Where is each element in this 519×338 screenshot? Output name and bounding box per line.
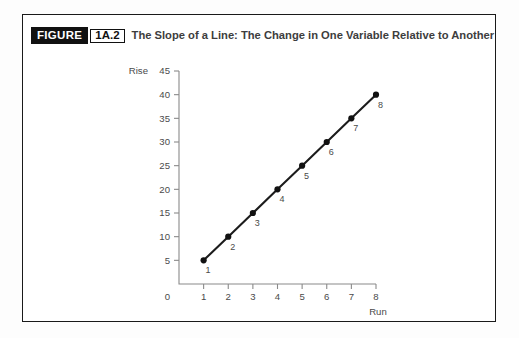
x-tick-label: 7	[349, 291, 354, 302]
y-tick-label: 40	[159, 89, 170, 100]
x-tick-label: 1	[201, 291, 206, 302]
figure-page: FIGURE 1A.2 The Slope of a Line: The Cha…	[0, 0, 519, 338]
x-tick-label: 8	[373, 291, 378, 302]
data-point-label: 7	[353, 123, 358, 133]
data-point	[348, 115, 354, 121]
x-tick-label: 6	[324, 291, 329, 302]
y-tick-label: 25	[159, 160, 170, 171]
data-point-label: 6	[329, 147, 334, 157]
data-point-label: 5	[304, 171, 309, 181]
origin-label: 0	[165, 291, 170, 302]
data-point	[299, 163, 305, 169]
data-point-label: 3	[255, 218, 260, 228]
data-point	[201, 257, 207, 263]
y-tick-label: 30	[159, 136, 170, 147]
y-axis-title: Rise	[129, 65, 148, 76]
x-axis-title: Run	[369, 306, 387, 317]
y-tick-label: 5	[165, 255, 170, 266]
y-tick-label: 15	[159, 207, 170, 218]
y-tick-label: 45	[159, 65, 170, 76]
y-tick-label: 10	[159, 231, 170, 242]
data-point	[250, 210, 256, 216]
y-tick-label: 20	[159, 184, 170, 195]
chart-plot-area: 510152025303540450Rise12345678Run1234567…	[23, 15, 497, 323]
x-tick-label: 5	[299, 291, 304, 302]
data-point	[324, 139, 330, 145]
data-point-label: 1	[206, 265, 211, 275]
data-point-label: 4	[279, 194, 284, 204]
data-point	[373, 92, 379, 98]
data-point-label: 2	[230, 242, 235, 252]
data-point	[225, 234, 231, 240]
data-point	[274, 186, 280, 192]
figure-frame: FIGURE 1A.2 The Slope of a Line: The Cha…	[22, 14, 496, 322]
data-point-label: 8	[378, 100, 383, 110]
line-chart: 510152025303540450Rise12345678Run1234567…	[23, 15, 497, 323]
chart-axes	[179, 71, 376, 284]
x-tick-label: 2	[226, 291, 231, 302]
y-tick-label: 35	[159, 113, 170, 124]
x-tick-label: 4	[275, 291, 281, 302]
x-tick-label: 3	[250, 291, 255, 302]
